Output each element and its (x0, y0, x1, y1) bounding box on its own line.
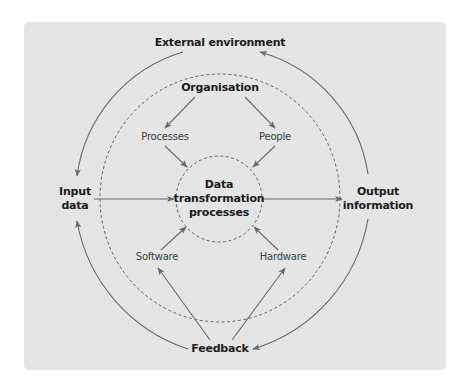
arrow-feedback-to-hardware (232, 268, 285, 340)
node-data-transformation-processes: Data transformation processes (174, 178, 265, 220)
input-data-line-1: Input (59, 185, 91, 199)
arrow-processes-to-core (165, 146, 187, 167)
output-line-2: information (343, 199, 413, 213)
node-software: Software (136, 250, 178, 264)
arc-output-to-feedback (253, 219, 368, 349)
arrow-organisation-to-people (245, 97, 275, 128)
arrow-people-to-core (253, 146, 275, 167)
node-hardware: Hardware (260, 250, 307, 264)
node-processes: Processes (141, 130, 189, 144)
arrow-hardware-to-core (254, 227, 278, 250)
node-external-environment: External environment (155, 36, 286, 50)
output-line-1: Output (343, 185, 413, 199)
arrow-feedback-to-software (158, 268, 210, 340)
node-people: People (259, 130, 291, 144)
core-line-2: transformation (174, 192, 265, 206)
core-line-1: Data (174, 178, 265, 192)
arrow-organisation-to-processes (165, 97, 195, 128)
input-data-line-2: data (59, 199, 91, 213)
core-line-3: processes (174, 206, 265, 220)
node-input-data: Input data (59, 185, 91, 213)
node-output-information: Output information (343, 185, 413, 213)
arc-output-to-external (260, 52, 368, 174)
arc-external-to-input (77, 52, 183, 176)
node-feedback: Feedback (191, 342, 248, 356)
node-organisation: Organisation (181, 81, 259, 95)
arrow-software-to-core (161, 227, 186, 250)
